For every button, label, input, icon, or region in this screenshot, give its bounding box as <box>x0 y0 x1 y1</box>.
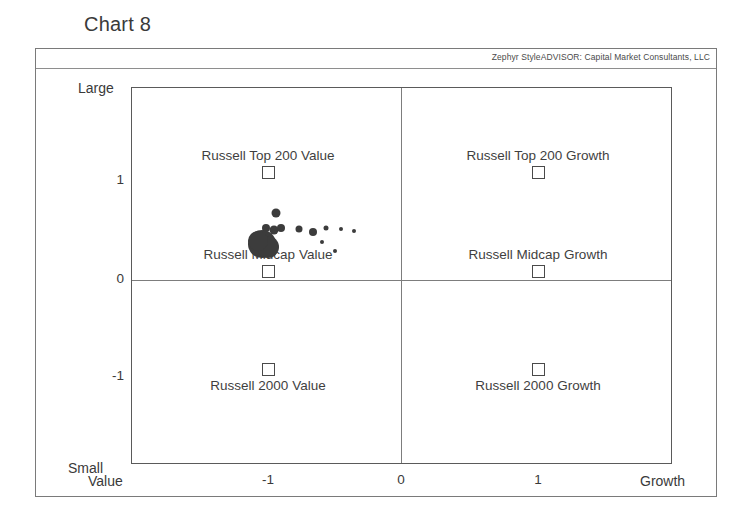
benchmark-label: Russell 2000 Value <box>168 378 368 394</box>
gridline-y-zero <box>132 280 671 281</box>
benchmark-label: Russell Midcap Value <box>168 247 368 263</box>
chart-header-bar: Zephyr StyleADVISOR: Capital Market Cons… <box>36 49 716 69</box>
y-tick-0: 0 <box>96 271 124 286</box>
x-tick-1: 1 <box>518 472 558 487</box>
benchmark-russell-2000-growth: Russell 2000 Growth <box>438 363 638 394</box>
benchmark-marker <box>532 363 545 376</box>
benchmark-marker <box>262 265 275 278</box>
benchmark-russell-top-200-value: Russell Top 200 Value <box>168 148 368 179</box>
benchmark-russell-2000-value: Russell 2000 Value <box>168 363 368 394</box>
benchmark-marker <box>532 166 545 179</box>
page-title: Chart 8 <box>84 13 151 36</box>
x-tick-0: 0 <box>381 472 421 487</box>
axis-label-value: Value <box>88 473 123 489</box>
y-tick-neg1: -1 <box>96 368 124 383</box>
x-tick-neg1: -1 <box>248 472 288 487</box>
chart-page: Chart 8 Zephyr StyleADVISOR: Capital Mar… <box>0 0 743 527</box>
benchmark-marker <box>262 363 275 376</box>
benchmark-russell-midcap-growth: Russell Midcap Growth <box>438 247 638 278</box>
axis-label-growth: Growth <box>640 473 685 489</box>
axis-label-large: Large <box>78 80 114 96</box>
gridline-x-zero <box>401 88 402 463</box>
benchmark-label: Russell Top 200 Growth <box>438 148 638 164</box>
benchmark-marker <box>262 166 275 179</box>
benchmark-russell-midcap-value: Russell Midcap Value <box>168 247 368 278</box>
y-tick-1: 1 <box>96 172 124 187</box>
benchmark-russell-top-200-growth: Russell Top 200 Growth <box>438 148 638 179</box>
benchmark-label: Russell Midcap Growth <box>438 247 638 263</box>
vendor-credit: Zephyr StyleADVISOR: Capital Market Cons… <box>492 52 710 62</box>
benchmark-label: Russell 2000 Growth <box>438 378 638 394</box>
benchmark-marker <box>532 265 545 278</box>
benchmark-label: Russell Top 200 Value <box>168 148 368 164</box>
